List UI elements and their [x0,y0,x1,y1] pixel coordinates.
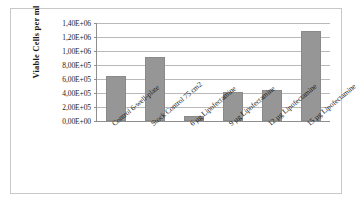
y-axis-tick-label: 1,40E+06 [62,19,91,28]
x-axis-tick-labels: Control 6-well-plateStock Control 75 cm2… [96,121,330,193]
bar [301,31,321,121]
y-axis-tick-label: 8,00E+05 [62,61,91,70]
y-axis-tick-label: 2,00E+05 [62,103,91,112]
y-axis-tick-label: 6,00E+05 [62,75,91,84]
y-axis-tick-label: 1,20E+06 [62,33,91,42]
y-axis-tick-label: 4,00E+05 [62,89,91,98]
chart-figure: Viable Cells per ml 0,00E+002,00E+054,00… [10,8,342,194]
y-axis-tick-label: 1,00E+06 [62,47,91,56]
y-axis-tick-label: 0,00E+00 [62,117,91,126]
y-axis-tick-labels: 0,00E+002,00E+054,00E+056,00E+058,00E+05… [37,23,94,121]
